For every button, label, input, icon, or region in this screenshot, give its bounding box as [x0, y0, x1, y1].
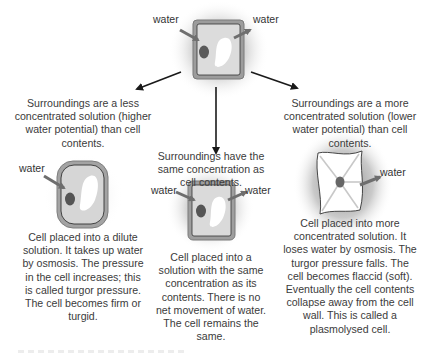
surroundings-text-same: Surroundings have the same concentration… [134, 150, 288, 190]
water-label-top-out: water [253, 13, 279, 25]
surroundings-text-concentrated: Surroundings are a more concentrated sol… [276, 97, 424, 150]
arrow-to-dilute-icon [137, 72, 181, 89]
description-text-same: Cell placed into a solution with the sam… [134, 251, 288, 343]
nucleus-icon [199, 46, 209, 59]
nucleus-icon [196, 205, 206, 218]
water-label-concentrated: water [380, 166, 406, 178]
surroundings-text-dilute: Surroundings are a less concentrated sol… [0, 97, 166, 150]
description-text-concentrated: Cell placed into more concentrated solut… [276, 217, 424, 336]
faint-caption-line [18, 350, 188, 353]
water-label-dilute: water [19, 162, 45, 174]
turgid-cell [43, 154, 123, 238]
nucleus-icon [336, 177, 345, 188]
water-label-top-in: water [153, 13, 179, 25]
nucleus-icon [65, 193, 75, 206]
